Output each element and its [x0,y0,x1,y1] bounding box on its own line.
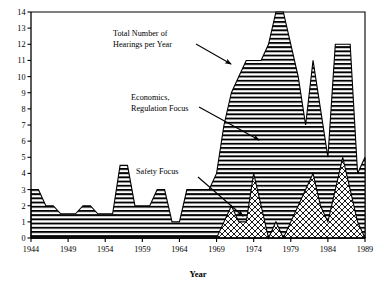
x-tick-label: 1959 [134,245,150,254]
y-tick-label: 2 [21,202,25,211]
x-tick-label: 1984 [320,245,336,254]
y-tick-label: 8 [21,105,25,114]
y-tick-label: 14 [17,8,25,17]
chart-canvas: 01234567891011121314 1944194919541959196… [0,0,384,290]
x-tick-label: 1964 [171,245,187,254]
x-tick-label: 1969 [208,245,224,254]
y-tick-label: 11 [18,56,26,65]
safety-annotation-text: Safety Focus [136,167,179,176]
y-tick-label: 13 [17,24,25,33]
x-tick-label: 1979 [283,245,299,254]
x-tick-label: 1974 [245,245,261,254]
hearings-area-chart: 01234567891011121314 1944194919541959196… [0,0,384,290]
y-tick-label: 12 [17,40,25,49]
y-tick-label: 1 [21,218,25,227]
x-tick-label: 1989 [357,245,373,254]
y-tick-label: 0 [21,234,25,243]
x-tick-label: 1949 [60,245,76,254]
y-tick-label: 10 [17,73,25,82]
x-tick-label: 1954 [97,245,113,254]
y-tick-label: 9 [21,89,25,98]
y-tick-label: 3 [21,186,25,195]
y-tick-label: 5 [21,153,25,162]
y-tick-label: 6 [21,137,25,146]
x-axis-title: Year [189,269,206,279]
x-tick-label: 1944 [23,245,39,254]
y-tick-label: 7 [21,121,25,130]
y-tick-label: 4 [21,169,25,178]
